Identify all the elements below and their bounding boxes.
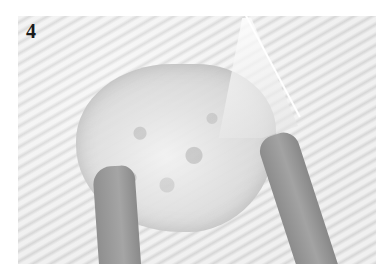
right-hand	[256, 128, 340, 264]
left-hand	[92, 165, 142, 264]
instruction-photo: 4	[18, 16, 376, 264]
step-number-label: 4	[26, 20, 36, 43]
